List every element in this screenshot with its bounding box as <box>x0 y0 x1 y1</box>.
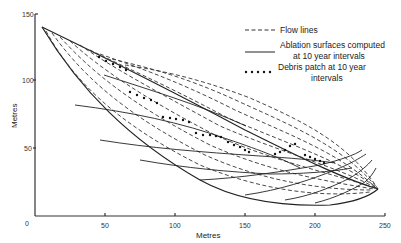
y-axis-title: Metres <box>10 104 19 128</box>
x-tick-250: 250 <box>379 222 391 229</box>
x-tick-100: 100 <box>169 222 181 229</box>
legend-item-ablation-surfaces: Ablation surfaces computed at 10 year in… <box>245 40 385 61</box>
svg-text:Debris patch at 10 year: Debris patch at 10 year <box>278 62 366 72</box>
chart: 150 100 50 0 50 100 150 200 250 Metres M… <box>0 0 401 243</box>
svg-text:intervals: intervals <box>311 73 343 83</box>
svg-text:Ablation surfaces computed: Ablation surfaces computed <box>280 40 385 50</box>
y-tick-150: 150 <box>22 11 34 18</box>
svg-text:Flow lines: Flow lines <box>280 25 318 35</box>
dots-icon <box>245 71 271 73</box>
svg-text:at 10 year intervals: at 10 year intervals <box>293 51 365 61</box>
x-tick-150: 150 <box>239 222 251 229</box>
ablation-surfaces <box>75 75 376 203</box>
x-axis-title: Metres <box>196 231 220 240</box>
y-tick-100: 100 <box>22 77 34 84</box>
y-tick-50: 50 <box>24 145 32 152</box>
legend: Flow lines Ablation surfaces computed at… <box>245 25 385 83</box>
x-tick-200: 200 <box>309 222 321 229</box>
y-tick-0: 0 <box>25 220 29 227</box>
x-tick-50: 50 <box>101 222 109 229</box>
legend-item-debris-patch: Debris patch at 10 year intervals <box>245 62 366 83</box>
legend-item-flow-lines: Flow lines <box>245 25 318 35</box>
